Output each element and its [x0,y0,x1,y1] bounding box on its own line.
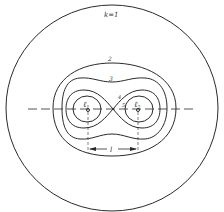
dimension-arrow-right-icon [130,147,137,151]
label-curve-3: 3 [109,75,113,82]
focus-left-subscript: 1 [86,104,89,110]
label-curve-2: 2 [107,55,112,62]
label-focus-left: ℓ1 [83,100,90,110]
cassini-ovals-diagram: k=1 2 3 4 5 ℓ1 ℓ2 l [0,0,224,212]
label-curve-4: 4 [117,94,121,100]
label-k1: k=1 [104,11,119,19]
curve-3 [62,78,167,139]
label-curve-5: 5 [122,102,125,108]
focus-right-subscript: 2 [136,104,140,110]
label-dimension-l: l [110,146,112,154]
dimension-arrow-left-icon [89,147,96,151]
label-focus-right: ℓ2 [134,100,141,110]
curve-2 [53,63,176,156]
